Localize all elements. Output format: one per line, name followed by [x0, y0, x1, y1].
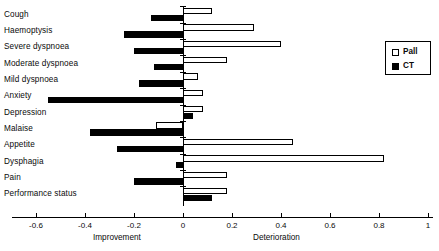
axis-caption-deterioration: Deterioration: [253, 233, 300, 242]
bar-pall-2: [183, 41, 281, 47]
bar-ct-6: [183, 113, 193, 119]
bar-pall-11: [183, 188, 227, 194]
zero-tick: [180, 6, 186, 7]
zero-tick: [180, 39, 186, 40]
category-label: Dysphagia: [4, 157, 44, 166]
axis-tick-label: 0.4: [261, 221, 301, 230]
category-label: Depression: [4, 108, 46, 117]
bar-pall-7: [156, 122, 183, 128]
legend-item-pall: Pall: [392, 48, 418, 56]
zero-reference-line: [183, 6, 184, 206]
zero-tick: [180, 154, 186, 155]
zero-tick: [180, 170, 186, 171]
category-label: Moderate dyspnoea: [4, 59, 78, 68]
axis-tick: [232, 213, 233, 217]
axis-tick-label: -0.4: [65, 221, 105, 230]
bar-chart: CoughHaemoptysisSevere dyspnoeaModerate …: [0, 0, 439, 251]
axis-tick-label: 1: [408, 221, 439, 230]
bar-pall-6: [183, 106, 203, 112]
bar-ct-7: [90, 129, 183, 135]
legend-swatch-open-icon: [392, 49, 399, 56]
category-label: Anxiety: [4, 91, 32, 100]
zero-tick: [180, 88, 186, 89]
bar-pall-9: [183, 155, 384, 161]
zero-tick: [180, 137, 186, 138]
category-label: Pain: [4, 173, 21, 182]
chart-legend: PallCT: [385, 41, 431, 75]
category-label: Appetite: [4, 140, 35, 149]
axis-tick: [428, 213, 429, 217]
axis-tick-label: 0.8: [359, 221, 399, 230]
zero-tick: [180, 121, 186, 122]
zero-tick: [180, 186, 186, 187]
zero-tick: [180, 55, 186, 56]
category-label: Haemoptysis: [4, 26, 52, 35]
zero-tick: [180, 105, 186, 106]
axis-tick-label: 0: [163, 221, 203, 230]
bar-ct-2: [134, 48, 183, 54]
legend-swatch-filled-icon: [392, 63, 399, 70]
bar-pall-1: [183, 24, 254, 30]
bar-ct-8: [117, 146, 183, 152]
axis-tick: [281, 213, 282, 217]
axis-tick-label: 0.2: [212, 221, 252, 230]
bar-ct-3: [154, 64, 183, 70]
plot-area: CoughHaemoptysisSevere dyspnoeaModerate …: [0, 0, 439, 213]
bar-ct-10: [134, 178, 183, 184]
bar-pall-0: [183, 8, 212, 14]
category-label: Performance status: [4, 189, 77, 198]
bar-ct-11: [183, 195, 212, 201]
legend-label: Pall: [403, 48, 418, 56]
bar-ct-5: [48, 97, 183, 103]
bar-pall-10: [183, 172, 227, 178]
category-label: Mild dyspnoea: [4, 75, 58, 84]
axis-tick-label: 0.6: [310, 221, 350, 230]
bar-pall-3: [183, 57, 227, 63]
axis-tick: [36, 213, 37, 217]
bar-pall-5: [183, 90, 203, 96]
axis-tick: [330, 213, 331, 217]
zero-tick: [180, 23, 186, 24]
zero-tick: [180, 72, 186, 73]
legend-item-ct: CT: [392, 62, 414, 70]
legend-label: CT: [403, 62, 414, 70]
bar-ct-4: [139, 80, 183, 86]
axis-caption-improvement: Improvement: [93, 233, 141, 242]
axis-tick-label: -0.2: [114, 221, 154, 230]
axis-tick: [134, 213, 135, 217]
category-label: Malaise: [4, 124, 33, 133]
bar-pall-8: [183, 139, 293, 145]
axis-tick: [379, 213, 380, 217]
category-label: Severe dyspnoea: [4, 42, 69, 51]
axis-tick-label: -0.6: [16, 221, 56, 230]
axis-line: [12, 217, 433, 218]
bar-pall-4: [183, 73, 198, 79]
axis-tick: [85, 213, 86, 217]
category-label: Cough: [4, 10, 29, 19]
bar-ct-1: [124, 31, 183, 37]
axis-tick: [183, 213, 184, 217]
bar-ct-0: [151, 15, 183, 21]
